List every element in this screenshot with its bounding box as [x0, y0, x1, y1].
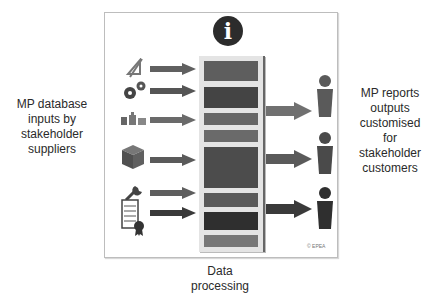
outputs-label: MP reports outputs customised for stakeh… [340, 86, 440, 176]
outputs-label-line: for [340, 131, 440, 146]
ruler-triangle-icon [124, 58, 146, 78]
info-icon: i [213, 16, 243, 46]
data-block [204, 87, 258, 108]
box-cube-icon [120, 144, 146, 170]
inputs-label-line: suppliers [2, 142, 102, 157]
outputs-label-line: customised [340, 116, 440, 131]
input-arrow [150, 63, 196, 75]
input-arrow [150, 207, 196, 219]
input-arrow [150, 154, 196, 166]
data-block [204, 113, 258, 125]
input-arrow [150, 187, 196, 199]
outputs-label-line: customers [340, 161, 440, 176]
data-block [204, 61, 258, 81]
factory-icon [120, 112, 148, 126]
copyright-text: © EPEA [307, 243, 325, 249]
input-arrow [150, 85, 196, 97]
inputs-label-line: MP database [2, 97, 102, 112]
outputs-label-line: MP reports [340, 86, 440, 101]
certificate-icon [120, 198, 146, 236]
data-block [204, 212, 258, 230]
inputs-label: MP database inputs by stakeholder suppli… [2, 97, 102, 157]
output-arrow [266, 102, 312, 120]
data-block [204, 235, 258, 247]
data-processing-column [199, 56, 265, 252]
data-processing-label: Data processing [170, 264, 270, 294]
outputs-label-line: stakeholder [340, 146, 440, 161]
outputs-label-line: outputs [340, 101, 440, 116]
person-icon [314, 186, 336, 230]
input-arrow [150, 114, 196, 126]
data-block [204, 147, 258, 188]
inputs-label-line: stakeholder [2, 127, 102, 142]
output-arrow [266, 200, 312, 218]
data-block [204, 130, 258, 142]
gears-icon [121, 80, 147, 102]
person-icon [314, 74, 336, 118]
inputs-label-line: inputs by [2, 112, 102, 127]
output-arrow [266, 150, 312, 168]
data-processing-label-line: Data [170, 264, 270, 279]
data-processing-label-line: processing [170, 279, 270, 294]
data-block [204, 193, 258, 207]
person-icon [314, 131, 336, 175]
